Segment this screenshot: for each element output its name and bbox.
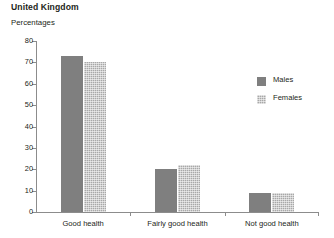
x-axis-line [36, 212, 319, 213]
y-axis-tick: 40 [36, 127, 37, 128]
chart-subtitle: Percentages [11, 18, 55, 27]
x-axis-label: Fairly good health [147, 219, 207, 228]
y-axis-tick: 30 [36, 148, 37, 149]
x-axis-separator [130, 212, 131, 216]
y-axis-tick-label: 80 [25, 36, 33, 45]
y-axis-tick: 50 [36, 105, 37, 106]
legend-label-males: Males [273, 75, 293, 84]
legend-swatch-females-icon [257, 95, 266, 104]
y-axis-tick: 0 [36, 212, 37, 213]
x-axis-label: Not good health [245, 219, 299, 228]
x-axis-label: Good health [62, 219, 103, 228]
bar-males-0 [61, 56, 83, 212]
y-axis-tick-label: 70 [25, 57, 33, 66]
x-axis-end-tick [318, 212, 319, 216]
plot-area: 01020304050607080 Good healthFairly good… [36, 41, 319, 212]
y-axis-tick-label: 0 [29, 207, 33, 216]
y-axis-tick: 60 [36, 84, 37, 85]
legend-label-females: Females [273, 93, 302, 102]
bar-chart: United Kingdom Percentages 0102030405060… [0, 0, 334, 238]
bar-females-1 [178, 165, 200, 212]
x-axis-separator [225, 212, 226, 216]
y-axis-tick-label: 10 [25, 186, 33, 195]
bar-females-2 [272, 193, 294, 212]
y-axis-tick-label: 30 [25, 143, 33, 152]
y-axis-tick: 10 [36, 191, 37, 192]
y-axis-tick-label: 20 [25, 164, 33, 173]
y-axis-tick-label: 60 [25, 79, 33, 88]
y-axis-tick-label: 40 [25, 122, 33, 131]
bar-males-2 [249, 193, 271, 212]
bar-females-0 [84, 62, 106, 212]
legend-swatch-males-icon [257, 77, 266, 86]
y-axis-tick-label: 50 [25, 100, 33, 109]
y-axis-tick: 70 [36, 62, 37, 63]
y-axis-tick: 20 [36, 169, 37, 170]
chart-title: United Kingdom [11, 2, 79, 12]
bar-males-1 [155, 169, 177, 212]
y-axis-tick: 80 [36, 41, 37, 42]
